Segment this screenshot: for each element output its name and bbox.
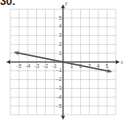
y-axis-arrow-down-icon [61, 116, 65, 120]
axes: xy [6, 1, 124, 120]
coordinate-plane: xy −5−4−3−2−11234554321−1−2−3−4−5 [0, 0, 128, 121]
x-axis-arrow-right-icon [116, 60, 120, 64]
y-tick-label: −1 [56, 68, 62, 73]
x-axis-arrow-left-icon [6, 60, 10, 64]
y-tick-label: −3 [56, 86, 62, 91]
x-tick-label: −5 [16, 64, 22, 69]
x-tick-label: −2 [43, 64, 49, 69]
x-tick-label: −4 [25, 64, 31, 69]
x-tick-label: −3 [34, 64, 40, 69]
y-tick-label: −2 [56, 77, 62, 82]
y-tick-label: −4 [56, 95, 62, 100]
x-axis-label: x [120, 60, 124, 65]
y-axis-label: y [64, 1, 68, 6]
y-tick-label: −5 [56, 104, 62, 109]
x-tick-label: 5 [106, 64, 109, 69]
